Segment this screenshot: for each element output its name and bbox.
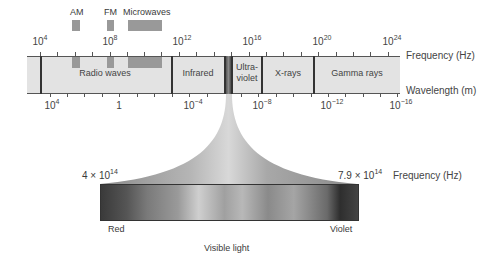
visible-low-frequency: 4 × 1014 [82, 170, 118, 181]
visible-high-frequency: 7.9 × 1014 [338, 170, 382, 181]
visible-spectrum-bar [100, 184, 359, 221]
visible-frequency-axis-name: Frequency (Hz) [393, 170, 462, 181]
red-label: Red [108, 224, 125, 234]
violet-label: Violet [330, 224, 352, 234]
visible-light-caption: Visible light [204, 243, 249, 253]
